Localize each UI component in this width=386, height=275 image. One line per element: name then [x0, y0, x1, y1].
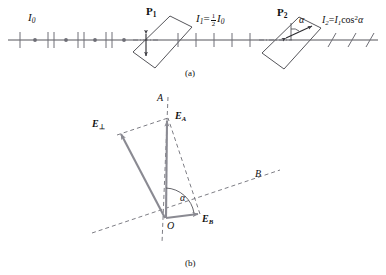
- vector-e-b: [166, 214, 198, 218]
- label-alpha-p2: α: [299, 14, 304, 25]
- label-vector-e-a: EA: [175, 110, 186, 122]
- transmission-axis-p2-arrow: [286, 26, 312, 38]
- label-alpha-panel-b: α: [180, 192, 185, 203]
- label-middle-intensity: I1=12I0: [196, 12, 224, 28]
- polarizer-p1: [133, 16, 192, 68]
- construction-line-left: [117, 118, 168, 135]
- caption-panel-b: (b): [185, 258, 196, 268]
- polarizer-p2: [262, 17, 321, 69]
- label-output-intensity: I2=I1cos2α: [322, 14, 363, 26]
- figure-canvas: [0, 0, 386, 275]
- polarization-figure: I0 P1 P2 I1=12I0 α I2=I1cos2α (a) A B E⊥…: [0, 0, 386, 275]
- label-vector-e-perpendicular: E⊥: [92, 118, 105, 131]
- vector-e-a: [166, 121, 167, 218]
- vector-e-perpendicular: [121, 134, 165, 218]
- p2-alpha-arc: [291, 29, 299, 31]
- axis-b-line: [92, 170, 280, 233]
- label-axis-a: A: [157, 92, 163, 103]
- label-origin: O: [167, 220, 174, 231]
- label-axis-b: B: [255, 168, 261, 179]
- label-incident-intensity: I0: [28, 11, 35, 25]
- label-polarizer-p2: P2: [277, 6, 287, 20]
- caption-panel-a: (a): [185, 68, 195, 78]
- label-polarizer-p1: P1: [146, 5, 156, 19]
- label-vector-e-b: EB: [202, 213, 213, 225]
